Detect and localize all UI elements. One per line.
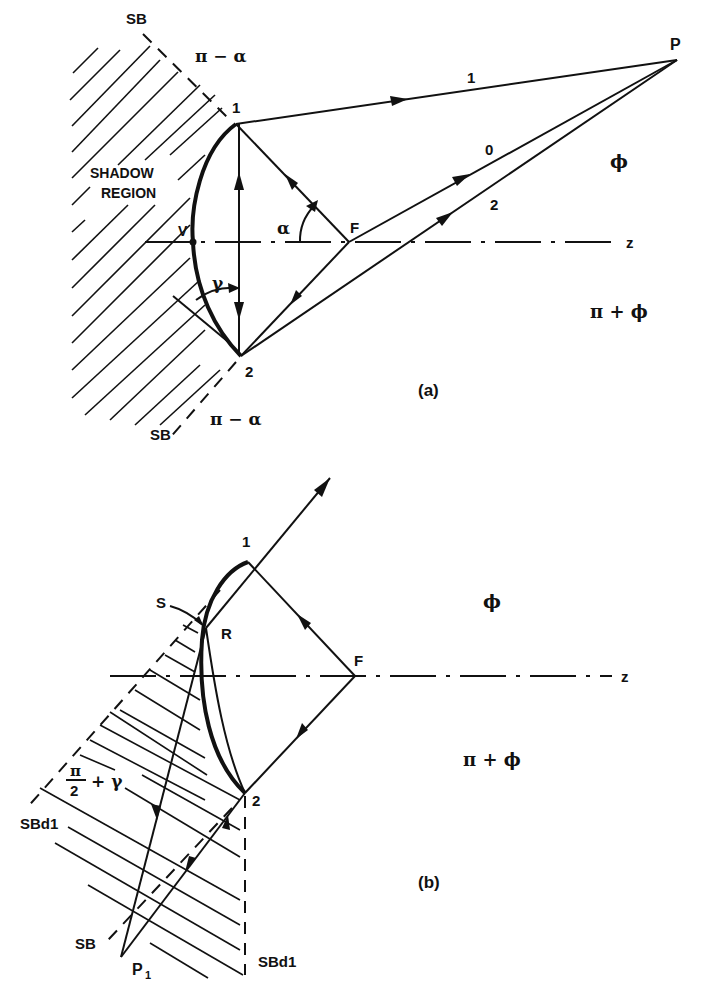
arrow-icon xyxy=(306,200,318,212)
vertex-dot xyxy=(190,239,197,246)
focus-label-a: F xyxy=(350,219,359,236)
arrow-icon xyxy=(185,856,196,872)
pi-plus-phi-label-a: π + ϕ xyxy=(590,301,648,322)
sbd1-label-right: SBd1 xyxy=(258,953,296,970)
arrow-icon xyxy=(436,212,453,226)
arrow-icon xyxy=(296,723,308,739)
sb-label-b: SB xyxy=(75,935,96,952)
pi-plus-phi-label-b: π + ϕ xyxy=(463,749,521,770)
reflector-diagram: SB π − α 1 SHADOW REGION V α F γ 2 π − α… xyxy=(0,0,701,996)
shadow-boundary-b xyxy=(25,590,220,810)
sb-label-top: SB xyxy=(126,10,147,27)
shadow-boundary-sb xyxy=(108,808,232,940)
arrow-icon xyxy=(390,96,408,106)
point-2-b: 2 xyxy=(252,792,260,809)
focus-label-b: F xyxy=(354,652,363,669)
arrow-up-icon xyxy=(234,172,244,190)
fraction-numerator: π xyxy=(70,762,81,780)
ray-1-label: 1 xyxy=(467,69,475,86)
ray-2-label: 2 xyxy=(490,196,498,213)
ray-0-label: 0 xyxy=(485,141,493,158)
point-p1-label: P xyxy=(132,961,143,978)
point-2-a: 2 xyxy=(245,363,253,380)
shadow-region-label-2: REGION xyxy=(101,185,156,201)
point-1-b: 1 xyxy=(242,533,250,550)
phi-label-a: ϕ xyxy=(610,150,628,172)
panel-a: SB π − α 1 SHADOW REGION V α F γ 2 π − α… xyxy=(70,10,681,443)
alpha-label: α xyxy=(277,218,290,238)
arrow-down-icon xyxy=(234,302,244,320)
point-p1-subscript: 1 xyxy=(145,969,151,981)
fraction-rest: + γ xyxy=(91,771,123,791)
panel-b: 1 S R F ϕ z π + ϕ 2 π 2 + γ SBd1 (b) SB … xyxy=(20,478,629,981)
phi-label-b: ϕ xyxy=(483,590,501,612)
shadow-hatching-a xyxy=(70,46,222,425)
caption-b: (b) xyxy=(418,873,440,892)
point-s-label: S xyxy=(156,594,166,611)
point-r-label: R xyxy=(221,625,232,642)
z-axis-label-a: z xyxy=(626,234,634,251)
shadow-region-label-1: SHADOW xyxy=(90,165,155,181)
point-1-a: 1 xyxy=(232,99,240,116)
angle-label-bottom: π − α xyxy=(210,409,262,429)
point-p-label: P xyxy=(670,36,681,53)
shadow-hatching-b xyxy=(40,625,243,978)
reflector-arc-b xyxy=(201,562,248,793)
z-axis-label-b: z xyxy=(621,668,629,685)
angle-label-top: π − α xyxy=(195,46,247,66)
vertex-label: V xyxy=(178,223,188,239)
sb-label-bottom: SB xyxy=(150,426,171,443)
alpha-arc xyxy=(300,206,314,242)
gamma-label: γ xyxy=(212,273,224,293)
caption-a: (a) xyxy=(418,381,439,400)
sbd1-label-left: SBd1 xyxy=(20,815,58,832)
fraction-denominator: 2 xyxy=(70,782,78,799)
